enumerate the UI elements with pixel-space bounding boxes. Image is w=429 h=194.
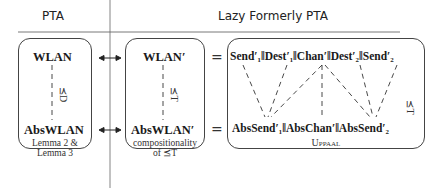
abswlan-prime-term: AbsWLAN′ <box>131 123 194 138</box>
equals-sign-bottom: = <box>211 121 223 137</box>
parallel-composition-top: Send′₁‖Dest′₁‖Chan′‖Dest′₂‖Send′₂ <box>230 50 394 62</box>
left-relation-symbol: ⪯D <box>58 87 69 102</box>
parallel-composition-bottom: AbsSend′₁‖AbsChan′‖AbsSend′₂ <box>232 122 389 134</box>
compositionality-note-line1: compositionality <box>126 138 204 148</box>
compositionality-note-line2: of ⪯T <box>126 148 204 158</box>
compositionality-note: compositionality of ⪯T <box>126 138 204 158</box>
right-relation-symbol: ⪯T <box>405 100 416 114</box>
equals-sign-top: = <box>211 49 223 65</box>
lemma-note: Lemma 2 & Lemma 3 <box>20 138 90 158</box>
middle-relation-symbol: ⪯T <box>169 87 180 101</box>
lemma-note-line1: Lemma 2 & <box>20 138 90 148</box>
wlan-term: WLAN <box>33 50 72 65</box>
wlan-prime-term: WLAN′ <box>143 50 185 65</box>
lemma-note-line2: Lemma 3 <box>20 148 90 158</box>
abswlan-term: AbsWLAN <box>24 123 84 138</box>
uppaal-label: Uppaal <box>227 138 425 148</box>
